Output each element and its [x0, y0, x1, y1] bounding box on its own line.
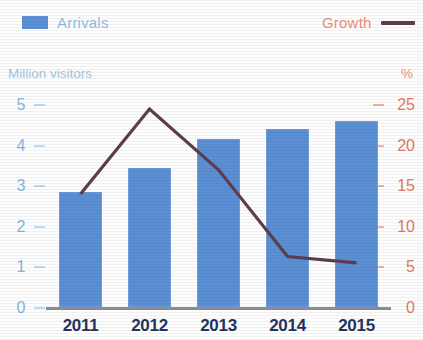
plot-area: 543210 2520151050 20112012201320142015 [0, 0, 423, 340]
chart-container: Arrivals Growth Million visitors % 54321… [0, 0, 423, 340]
x-label-2012: 2012 [115, 316, 184, 336]
x-label-2011: 2011 [46, 316, 115, 336]
x-axis-line [46, 307, 391, 310]
x-axis-labels: 20112012201320142015 [0, 312, 423, 340]
x-label-2014: 2014 [253, 316, 322, 336]
x-label-2015: 2015 [322, 316, 391, 336]
line-series-growth [0, 0, 423, 340]
x-label-2013: 2013 [184, 316, 253, 336]
